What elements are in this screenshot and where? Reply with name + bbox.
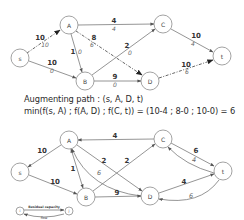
- original-network: 10 10 10 0 4 4 1 0 8 6 2 0 9 0 10 4 10 6…: [11, 15, 231, 90]
- node-s: s: [11, 49, 29, 67]
- res-A-D: 2: [102, 157, 107, 165]
- legend-node-i: i: [20, 209, 21, 213]
- legend-residual-label: Residual capacity: [28, 205, 60, 209]
- svg-text:B: B: [84, 194, 88, 201]
- node-B: B: [76, 72, 94, 90]
- flow-C-t: 4: [191, 40, 195, 47]
- res-edge-B-C: [93, 144, 155, 191]
- res-node-t: t: [214, 162, 232, 180]
- res-B-D: 9: [115, 189, 120, 197]
- cap-A-C: 4: [112, 17, 117, 25]
- flow-D-A: 6: [97, 169, 101, 177]
- bottleneck-formula: min(f(s, A) ; f(A, D) ; f(C, t)) = (10-4…: [24, 106, 235, 116]
- res-B-C: 2: [125, 157, 130, 165]
- node-t: t: [213, 47, 231, 65]
- res-node-s: s: [11, 163, 29, 181]
- node-D: D: [141, 72, 159, 90]
- legend-node-j: j: [68, 209, 70, 213]
- cap-A-B: 1: [71, 48, 76, 56]
- res-node-B: B: [77, 188, 95, 206]
- flow-t-D: 6: [189, 192, 193, 200]
- res-D-t: 4: [182, 178, 187, 186]
- res-s-B: 10: [50, 178, 60, 186]
- flow-B-C: 0: [128, 49, 132, 56]
- svg-text:D: D: [148, 78, 153, 85]
- res-A-s: 10: [37, 147, 47, 155]
- flow-t-C: 4: [192, 156, 196, 164]
- flow-A-B: 0: [78, 48, 82, 55]
- edge-B-C: [92, 29, 155, 75]
- res-edge-D-t: [159, 174, 214, 193]
- svg-text:D: D: [148, 193, 153, 200]
- legend-flow-label: flow: [41, 216, 48, 220]
- node-A: A: [60, 16, 78, 34]
- node-C: C: [154, 15, 172, 33]
- cap-C-t: 10: [191, 32, 201, 40]
- svg-text:s: s: [18, 55, 21, 62]
- flow-A-C: 4: [112, 25, 116, 32]
- svg-text:s: s: [18, 169, 21, 176]
- res-node-C: C: [154, 130, 172, 148]
- flow-s-B: 0: [50, 67, 54, 74]
- cap-s-B: 10: [47, 59, 57, 67]
- res-C-t: 6: [194, 147, 199, 155]
- residual-network: 10 10 4 1 2 6 2 9 6 4 4 6 s A B C D t: [11, 130, 232, 206]
- res-A-B: 1: [71, 165, 76, 173]
- svg-text:C: C: [161, 21, 165, 28]
- flow-B-D: 0: [113, 81, 117, 88]
- res-node-A: A: [60, 131, 78, 149]
- res-edge-A-D: [77, 145, 142, 191]
- svg-text:C: C: [161, 136, 165, 143]
- res-C-A: 4: [113, 132, 118, 140]
- cap-B-D: 9: [113, 73, 118, 81]
- augmenting-path-caption: Augmenting path : (s, A, D, t): [24, 94, 143, 104]
- res-node-D: D: [141, 187, 159, 205]
- edge-A-D: [76, 31, 142, 75]
- flow-D-t: 6: [185, 68, 189, 75]
- flow-s-A: 10: [41, 41, 49, 48]
- legend: i j Residual capacity flow: [16, 205, 73, 220]
- flow-A-D: 6: [90, 41, 94, 48]
- svg-text:B: B: [83, 78, 87, 85]
